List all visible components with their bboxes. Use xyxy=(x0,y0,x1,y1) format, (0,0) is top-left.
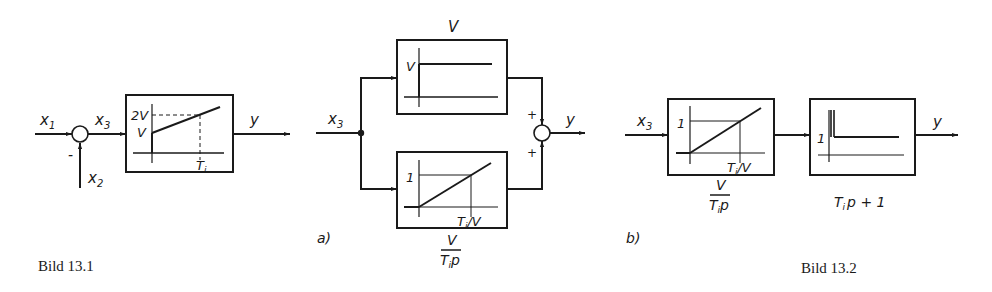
svg-text:Tip: Tip xyxy=(709,197,729,215)
label-1: 1 xyxy=(817,131,825,146)
summing-junction xyxy=(72,126,88,142)
lower-branch-arrow xyxy=(361,133,397,189)
part-a-label: a) xyxy=(317,230,331,246)
top-block-title: V xyxy=(448,18,460,36)
label-v: V xyxy=(137,125,147,140)
i-block-transfer-function: V Tip xyxy=(709,177,730,215)
x3-label: x3 xyxy=(94,111,110,131)
caption-bild-13-1: Bild 13.1 xyxy=(38,258,94,274)
figure-13-2a: x3 V V 1 Ti/V V Tip + + xyxy=(316,18,585,270)
caption-bild-13-2: Bild 13.2 xyxy=(801,260,857,276)
figure-13-1: x1 - x2 x3 2V V Ti y Bild 13.1 xyxy=(35,95,290,274)
svg-text:V: V xyxy=(447,232,458,248)
label-v: V xyxy=(406,59,416,74)
label-2v: 2V xyxy=(131,108,149,123)
x1-label: x1 xyxy=(39,111,55,131)
pd-block-transfer-function: Tip + 1 xyxy=(834,194,886,212)
p-block xyxy=(397,40,507,114)
ramp-line xyxy=(419,163,491,207)
ramp-line xyxy=(152,107,220,133)
label-1: 1 xyxy=(677,116,685,131)
summing-junction xyxy=(534,125,550,141)
label-ti-v: Ti/V xyxy=(727,160,752,177)
diagram-canvas: x1 - x2 x3 2V V Ti y Bild 13.1 x3 xyxy=(0,0,992,292)
x2-label: x2 xyxy=(87,169,103,189)
ramp-line xyxy=(690,108,761,153)
minus-sign: - xyxy=(68,147,73,163)
figure-13-2b: x3 1 Ti/V V Tip 1 Tip + 1 y b) Bild 13.2 xyxy=(625,99,958,276)
plus-sign-top: + xyxy=(527,108,537,122)
label-ti: Ti xyxy=(196,158,207,175)
plus-sign-bottom: + xyxy=(527,146,537,160)
part-b-label: b) xyxy=(626,230,640,246)
y-label: y xyxy=(565,111,576,129)
x3-label: x3 xyxy=(636,112,652,132)
y-label: y xyxy=(932,113,943,131)
svg-text:Tip: Tip xyxy=(440,252,460,270)
x3-label: x3 xyxy=(327,110,343,130)
y-label: y xyxy=(249,111,260,129)
label-1: 1 xyxy=(406,170,414,185)
step-response-plot: 2V V Ti xyxy=(131,104,224,175)
label-ti-v: Ti/V xyxy=(457,214,482,231)
upper-branch-arrow xyxy=(361,78,397,133)
i-block-transfer-function: V Tip xyxy=(440,232,461,270)
svg-text:V: V xyxy=(716,177,727,193)
